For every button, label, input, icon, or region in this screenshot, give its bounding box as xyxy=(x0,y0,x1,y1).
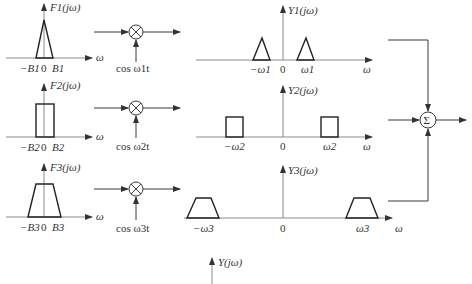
y3-tick-pos: ω3 xyxy=(356,222,370,234)
y2-neg-rect xyxy=(226,117,243,137)
f3-omega-label: ω xyxy=(96,210,104,222)
input-spectrum-f1: F1(jω) ω −B1 0 B1 xyxy=(6,1,104,74)
f3-tick-neg: −B3 xyxy=(20,221,40,233)
output-spectrum-y2: Y2(jω) −ω2 0 ω2 ω xyxy=(196,84,372,152)
f1-tick-zero: 0 xyxy=(41,62,47,74)
carrier-2-label: cos ω2t xyxy=(116,140,149,152)
y-label: Y(jω) xyxy=(218,256,243,269)
y3-label: Y3(jω) xyxy=(288,164,318,177)
f1-tick-neg: −B1 xyxy=(20,62,40,74)
multiplier-2: cos ω2t xyxy=(94,101,180,152)
y2-omega-label: ω xyxy=(363,140,371,152)
multiplier-1: cos ω1t xyxy=(94,25,180,74)
f3-tick-pos: B3 xyxy=(52,221,65,233)
y1-tick-neg: −ω1 xyxy=(250,63,271,75)
y2-tick-pos: ω2 xyxy=(323,140,337,152)
carrier-1-label: cos ω1t xyxy=(116,62,149,74)
f3-tick-zero: 0 xyxy=(41,221,47,233)
f3-label: F3(jω) xyxy=(49,161,81,174)
multiplier-3: cos ω3t xyxy=(94,182,180,234)
f2-omega-label: ω xyxy=(96,130,104,142)
y1-label: Y1(jω) xyxy=(288,4,318,17)
y1-tick-zero: 0 xyxy=(280,63,286,75)
input-spectrum-f2: F2(jω) ω −B2 0 B2 xyxy=(6,79,104,153)
y1-neg-triangle xyxy=(253,38,270,60)
y2-tick-zero: 0 xyxy=(280,140,286,152)
y2-pos-rect xyxy=(321,117,338,137)
y1-omega-label: ω xyxy=(363,63,371,75)
y3-tick-zero: 0 xyxy=(280,222,286,234)
y2-label: Y2(jω) xyxy=(288,84,318,97)
f2-tick-neg: −B2 xyxy=(20,141,40,153)
y3-tick-neg: −ω3 xyxy=(193,222,214,234)
f1-omega-label: ω xyxy=(96,51,104,63)
f2-label: F2(jω) xyxy=(49,79,81,92)
summer: Σ xyxy=(388,40,466,201)
f2-tick-pos: B2 xyxy=(52,141,65,153)
y1-pos-triangle xyxy=(297,38,314,60)
y3-neg-trapezoid xyxy=(187,198,219,218)
result-spectrum-y: Y(jω) xyxy=(212,256,243,284)
output-spectrum-y3: Y3(jω) −ω3 0 ω3 ω xyxy=(184,164,403,234)
input-spectrum-f3: F3(jω) ω −B3 0 B3 xyxy=(6,161,104,233)
f1-tick-pos: B1 xyxy=(52,62,64,74)
y1-tick-pos: ω1 xyxy=(301,63,314,75)
fdm-diagram: F1(jω) ω −B1 0 B1 cos ω1t Y1(jω) −ω1 0 ω… xyxy=(0,0,472,284)
f1-label: F1(jω) xyxy=(49,1,81,14)
output-spectrum-y1: Y1(jω) −ω1 0 ω1 ω xyxy=(196,4,372,75)
carrier-3-label: cos ω3t xyxy=(116,222,149,234)
y3-omega-label: ω xyxy=(395,222,403,234)
f2-rect-spectrum xyxy=(36,104,54,137)
y2-tick-neg: −ω2 xyxy=(224,140,245,152)
summer-sigma: Σ xyxy=(424,114,430,126)
f2-tick-zero: 0 xyxy=(41,141,47,153)
y3-pos-trapezoid xyxy=(346,198,378,218)
